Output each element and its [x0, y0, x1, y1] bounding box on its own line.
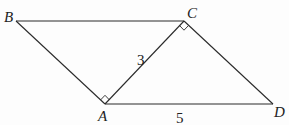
segment-ac — [105, 21, 184, 104]
point-label-b: B — [4, 9, 13, 25]
point-label-d: D — [273, 104, 285, 120]
length-label-ac: 3 — [137, 52, 145, 68]
geometry-diagram: B C A D 3 5 — [0, 0, 289, 125]
right-angle-marker-c — [180, 26, 189, 31]
segment-cd — [184, 21, 273, 104]
point-label-a: A — [97, 108, 108, 124]
length-label-ad: 5 — [176, 110, 184, 125]
segment-ba — [16, 21, 105, 104]
right-angle-marker-a — [101, 95, 110, 100]
diagram-svg: B C A D 3 5 — [0, 0, 289, 125]
point-label-c: C — [187, 5, 198, 21]
